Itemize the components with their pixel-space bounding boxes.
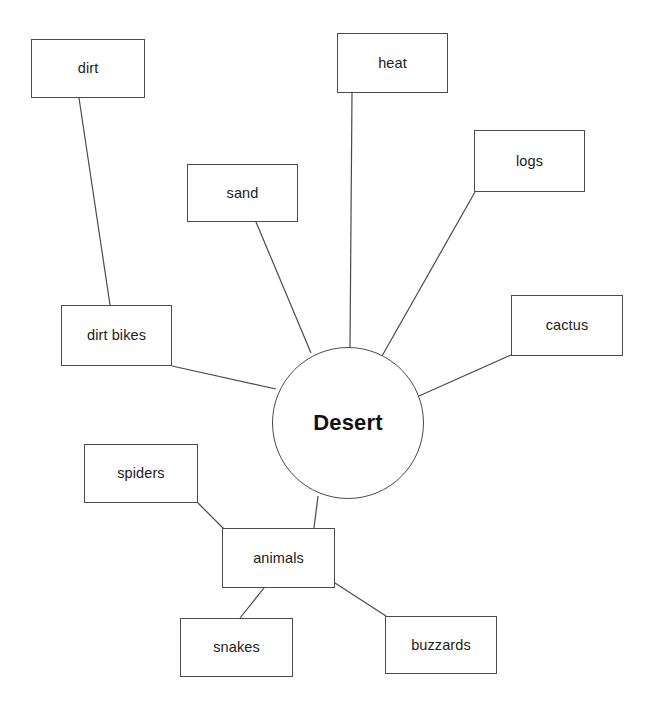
node-dirt[interactable]: dirt [31, 39, 145, 98]
node-label-dirt: dirt [78, 61, 99, 76]
center-node-desert[interactable]: Desert [272, 347, 424, 499]
node-label-spiders: spiders [117, 466, 164, 481]
node-logs[interactable]: logs [474, 130, 585, 192]
edge-logs-desert [382, 192, 475, 356]
node-buzzards[interactable]: buzzards [385, 616, 497, 674]
center-node-label: Desert [313, 410, 383, 436]
edge-sand-desert [256, 222, 311, 353]
node-label-dirt-bikes: dirt bikes [87, 328, 146, 343]
node-label-logs: logs [516, 154, 543, 169]
edge-dirtbikes-desert [172, 366, 276, 389]
edge-dirt-dirtbikes [79, 98, 110, 305]
mind-map-canvas: Desertdirtheatlogssandcactusdirt bikessp… [0, 0, 657, 715]
edge-desert-animals [314, 496, 318, 528]
edge-heat-desert [350, 93, 352, 347]
node-sand[interactable]: sand [187, 164, 298, 222]
node-label-animals: animals [253, 551, 304, 566]
node-dirt-bikes[interactable]: dirt bikes [61, 305, 172, 366]
edge-animals-snakes [240, 588, 264, 618]
node-spiders[interactable]: spiders [84, 444, 198, 503]
node-label-sand: sand [227, 186, 259, 201]
node-animals[interactable]: animals [222, 528, 335, 588]
edge-cactus-desert [419, 355, 511, 396]
edge-spiders-animals [198, 503, 224, 529]
edge-animals-buzzards [335, 583, 386, 616]
node-label-snakes: snakes [213, 640, 260, 655]
node-label-heat: heat [378, 56, 407, 71]
node-snakes[interactable]: snakes [180, 618, 293, 677]
node-heat[interactable]: heat [337, 33, 448, 93]
node-label-buzzards: buzzards [411, 638, 471, 653]
node-label-cactus: cactus [546, 318, 589, 333]
node-cactus[interactable]: cactus [511, 295, 623, 356]
